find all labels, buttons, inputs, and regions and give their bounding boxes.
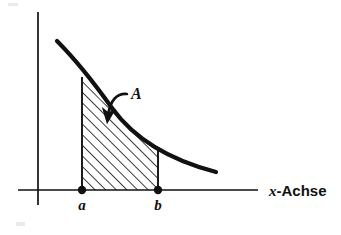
tick-label-a: a [78, 197, 86, 213]
tick-label-b: b [154, 197, 162, 213]
x-axis-label-word: -Achse [277, 182, 327, 199]
area-label-A: A [130, 85, 142, 102]
point-a-dot [78, 186, 86, 194]
x-axis-label: x-Achse [268, 182, 327, 199]
integral-area-diagram: A a b x-Achse [0, 0, 341, 235]
figure-container: A a b x-Achse [0, 0, 341, 235]
point-b-dot [154, 186, 162, 194]
